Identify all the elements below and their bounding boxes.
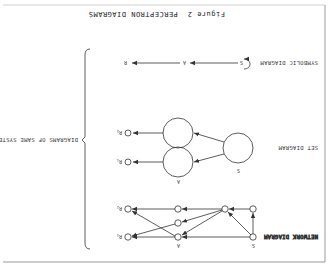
- self-loop-arrow: [244, 59, 250, 69]
- set-s-circle: [223, 133, 253, 163]
- network-node-a3: [175, 206, 181, 212]
- network-diagram-label: NETWORK DIAGRAM: [263, 234, 318, 240]
- set-s-label: S: [237, 168, 240, 174]
- set-diagram: SET DIAGRAM: [125, 118, 318, 177]
- symbolic-r-label: R: [123, 60, 127, 66]
- figure-title: Figure 2 PERCEPTRON DIAGRAMS: [88, 10, 225, 18]
- perceptron-diagram-figure: NETWORK DIAGRAM S A R1 R2 SET DIAGRAM: [0, 0, 328, 269]
- set-r2-label: R2: [117, 129, 122, 137]
- network-node-a1: [175, 234, 181, 240]
- network-node-s3: [222, 206, 228, 212]
- figure-page: NETWORK DIAGRAM S A R1 R2 SET DIAGRAM: [0, 0, 328, 269]
- set-a-circle-1: [163, 147, 193, 177]
- frame: [3, 5, 325, 262]
- symbolic-diagram: SYMBOLIC DIAGRAM: [132, 59, 318, 69]
- symbolic-a-label: A: [183, 60, 186, 66]
- symbolic-diagram-label: SYMBOLIC DIAGRAM: [260, 60, 318, 66]
- bracket-label: DIAGRAMS OF SAME SYSTEM: [0, 137, 78, 143]
- network-node-r2: [125, 206, 131, 212]
- set-r1-node: [125, 159, 131, 165]
- network-s-label: S: [252, 243, 255, 249]
- set-r1-label: R1: [117, 158, 122, 166]
- symbolic-s-label: S: [240, 60, 243, 66]
- network-node-a2: [175, 220, 181, 226]
- set-a-label: A: [177, 179, 180, 185]
- set-a-circle-2: [163, 118, 193, 148]
- system-bracket: [82, 49, 90, 249]
- network-r1-label: R1: [117, 233, 122, 241]
- network-node-r1: [125, 234, 131, 240]
- network-diagram: NETWORK DIAGRAM: [125, 206, 318, 240]
- network-r2-label: R2: [117, 205, 122, 213]
- set-r2-node: [125, 130, 131, 136]
- set-diagram-label: SET DIAGRAM: [278, 145, 318, 151]
- network-a-label: A: [177, 243, 180, 249]
- network-node-s2: [250, 206, 256, 212]
